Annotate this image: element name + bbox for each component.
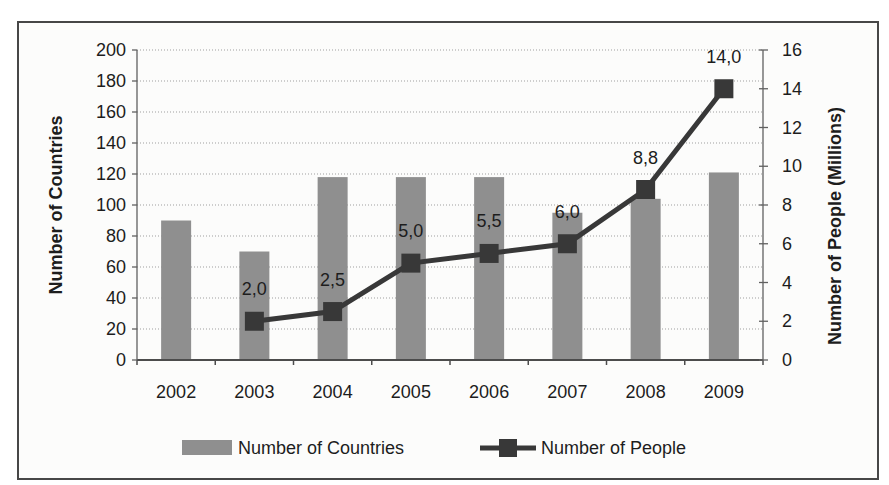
- x-tick-label: 2003: [234, 382, 274, 402]
- marker-2006: [480, 244, 499, 263]
- right-tick-label: 10: [782, 156, 802, 176]
- marker-2003: [245, 312, 264, 331]
- bar-2006: [474, 177, 504, 360]
- left-tick-label: 60: [106, 257, 126, 277]
- marker-2007: [558, 234, 577, 253]
- left-tick-label: 40: [106, 288, 126, 308]
- left-tick-label: 20: [106, 319, 126, 339]
- right-tick-label: 8: [782, 195, 792, 215]
- x-tick-label: 2008: [626, 382, 666, 402]
- marker-2005: [401, 254, 420, 273]
- x-tick-label: 2006: [469, 382, 509, 402]
- data-label-2009: 14,0: [706, 47, 741, 67]
- data-label-2006: 5,5: [477, 211, 502, 231]
- x-tick-label: 2004: [313, 382, 353, 402]
- bar-2004: [318, 177, 348, 360]
- left-tick-label: 100: [96, 195, 126, 215]
- bar-2002: [161, 221, 191, 361]
- data-label-2003: 2,0: [242, 279, 267, 299]
- data-label-2008: 8,8: [633, 148, 658, 168]
- legend-marker-people: [499, 439, 517, 457]
- bar-2003: [239, 252, 269, 361]
- data-label-2007: 6,0: [555, 202, 580, 222]
- x-tick-label: 2007: [547, 382, 587, 402]
- data-label-2005: 5,0: [398, 221, 423, 241]
- bar-2008: [631, 199, 661, 360]
- x-tick-label: 2005: [391, 382, 431, 402]
- x-tick-label: 2009: [704, 382, 744, 402]
- marker-2008: [636, 180, 655, 199]
- data-label-2004: 2,5: [320, 270, 345, 290]
- left-tick-label: 0: [116, 350, 126, 370]
- legend-label-countries: Number of Countries: [238, 438, 404, 458]
- figure-frame: [18, 22, 878, 479]
- left-tick-label: 120: [96, 164, 126, 184]
- chart-canvas: 0204060801001201401601802000246810121416…: [0, 0, 889, 485]
- right-tick-label: 0: [782, 350, 792, 370]
- scanned-chart-figure: 0204060801001201401601802000246810121416…: [0, 0, 889, 485]
- bar-2009: [709, 172, 739, 360]
- right-tick-label: 12: [782, 118, 802, 138]
- x-tick-label: 2002: [156, 382, 196, 402]
- left-tick-label: 80: [106, 226, 126, 246]
- right-tick-label: 14: [782, 79, 802, 99]
- right-tick-label: 2: [782, 311, 792, 331]
- left-tick-label: 160: [96, 102, 126, 122]
- left-axis-title: Number of Countries: [46, 115, 66, 294]
- marker-2004: [323, 302, 342, 321]
- marker-2009: [714, 79, 733, 98]
- right-axis-title: Number of People (Millions): [825, 107, 845, 345]
- right-tick-label: 6: [782, 234, 792, 254]
- left-tick-label: 180: [96, 71, 126, 91]
- left-tick-label: 140: [96, 133, 126, 153]
- right-tick-label: 16: [782, 40, 802, 60]
- right-tick-label: 4: [782, 273, 792, 293]
- legend-label-people: Number of People: [541, 438, 686, 458]
- left-tick-label: 200: [96, 40, 126, 60]
- legend-swatch-countries: [182, 440, 232, 455]
